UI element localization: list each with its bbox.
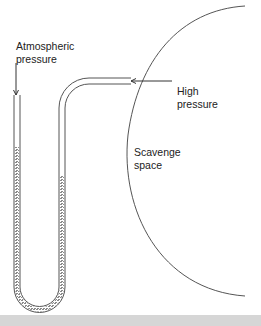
high-pressure-label: High pressure [177, 85, 218, 111]
atmospheric-label-line1: Atmospheric [16, 40, 74, 53]
high-pressure-arrow [131, 79, 172, 84]
high-label-line1: High [177, 85, 218, 98]
atmospheric-pressure-label: Atmospheric pressure [16, 40, 74, 66]
scavenge-label-line2: space [134, 159, 181, 172]
atmospheric-label-line2: pressure [16, 53, 74, 66]
scavenge-space-label: Scavenge space [134, 146, 181, 172]
manometer-liquid [15, 147, 64, 312]
footer-bar [0, 315, 261, 326]
scavenge-label-line1: Scavenge [134, 146, 181, 159]
atmospheric-arrow [14, 63, 19, 95]
manometer-tube [14, 78, 131, 313]
manometer-diagram: Atmospheric pressure High pressure Scave… [0, 0, 261, 326]
high-label-line2: pressure [177, 98, 218, 111]
